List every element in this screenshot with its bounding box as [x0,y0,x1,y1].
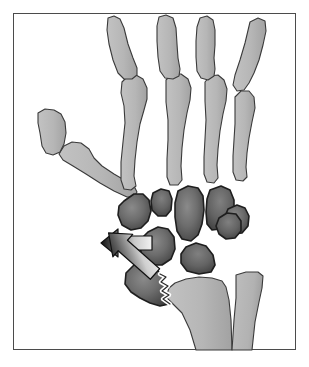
radius-bone [166,277,232,350]
proximal-phalanx-middle [157,15,180,79]
pisiform-bone [216,213,241,239]
metacarpal-2 [121,75,147,190]
wrist-skeleton-illustration [0,0,309,367]
figure-root: Wrist skeleton diagram with displacement… [0,0,309,367]
forearm-group [166,272,263,350]
proximal-phalanx-thumb [38,109,66,155]
metacarpal-5 [233,91,255,181]
capitate-bone [175,186,204,241]
phalanges-group [38,15,266,155]
proximal-phalanx-little [233,18,266,91]
metacarpals-group [59,74,255,197]
ulna-bone [232,272,263,350]
lunate-bone [181,243,215,274]
proximal-phalanx-ring [196,16,215,80]
proximal-phalanx-index [107,16,137,79]
metacarpal-4 [204,75,227,183]
metacarpal-3 [166,74,191,185]
trapezium-bone [118,194,151,230]
trapezoid-bone [151,189,172,216]
